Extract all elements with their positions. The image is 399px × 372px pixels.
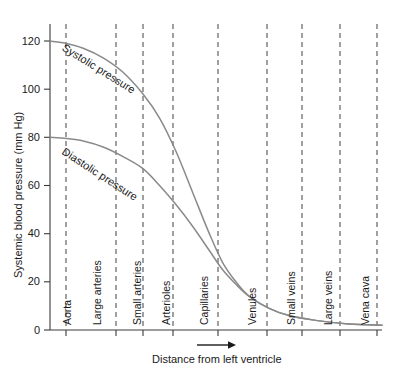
y-tick-label-120: 120 xyxy=(14,36,40,47)
y-axis-ticks xyxy=(44,41,50,330)
category-label-small-veins: Small veins xyxy=(286,271,297,325)
y-tick-label-0: 0 xyxy=(14,325,40,336)
y-axis-title: Systemic blood pressure (mm Hg) xyxy=(13,112,24,278)
x-axis-title: Distance from left ventricle xyxy=(152,354,282,365)
blood-pressure-chart-figure: 120 100 80 60 40 20 0 Systemic blood pre… xyxy=(0,0,399,372)
direction-of-flow-arrow xyxy=(197,341,236,348)
category-label-vena-cava: Vena cava xyxy=(360,276,371,325)
x-axis-ticks xyxy=(66,330,377,336)
category-label-arterioles: Arterioles xyxy=(161,281,172,325)
category-label-aorta: Aorta xyxy=(62,300,73,325)
category-label-small-arteries: Small arteries xyxy=(132,261,143,325)
y-tick-label-100: 100 xyxy=(14,84,40,95)
category-label-large-arteries: Large arteries xyxy=(92,260,103,325)
category-label-capillaries: Capillaries xyxy=(199,276,210,325)
category-label-large-veins: Large veins xyxy=(323,271,334,325)
category-label-venules: Venules xyxy=(247,288,258,325)
